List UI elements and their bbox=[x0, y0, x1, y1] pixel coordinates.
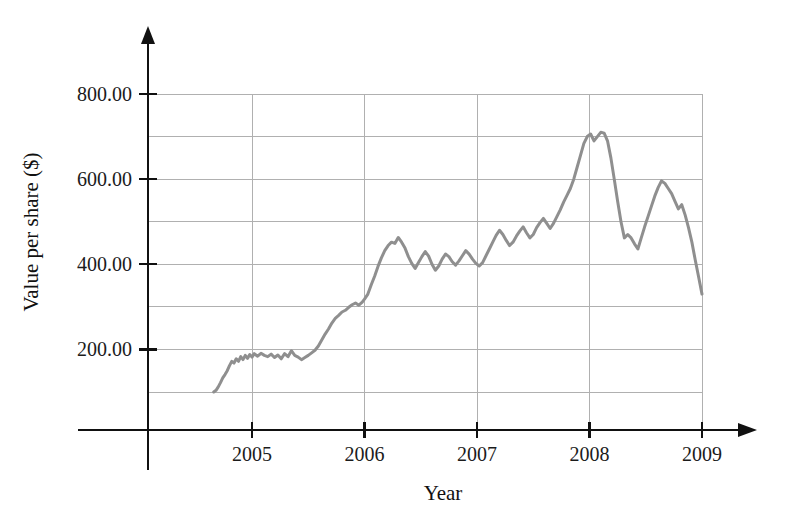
y-tick-label: 200.00 bbox=[77, 338, 132, 360]
x-axis-title: Year bbox=[424, 481, 463, 505]
y-axis-arrowhead bbox=[141, 26, 155, 44]
line-chart: 200.00400.00600.00800.00 200520062007200… bbox=[0, 0, 791, 522]
x-tick-label: 2005 bbox=[232, 443, 272, 465]
axes bbox=[78, 26, 757, 470]
y-axis-title: Value per share ($) bbox=[19, 152, 43, 311]
x-tick-label: 2007 bbox=[457, 443, 497, 465]
data-series-line bbox=[214, 132, 702, 392]
x-axis-tick-labels: 20052006200720082009 bbox=[232, 443, 722, 465]
y-tick-label: 400.00 bbox=[77, 253, 132, 275]
y-tick-label: 600.00 bbox=[77, 168, 132, 190]
y-tick-label: 800.00 bbox=[77, 83, 132, 105]
horizontal-gridlines bbox=[148, 94, 702, 392]
x-tick-label: 2009 bbox=[682, 443, 722, 465]
x-tick-label: 2008 bbox=[570, 443, 610, 465]
x-tick-label: 2006 bbox=[345, 443, 385, 465]
y-axis-tick-labels: 200.00400.00600.00800.00 bbox=[77, 83, 132, 360]
vertical-gridlines bbox=[252, 94, 702, 430]
chart-container: 200.00400.00600.00800.00 200520062007200… bbox=[0, 0, 791, 522]
x-axis-arrowhead bbox=[738, 423, 757, 437]
